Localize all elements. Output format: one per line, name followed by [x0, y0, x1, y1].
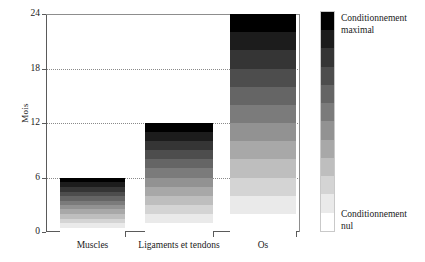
y-tick-label-24: 24 [6, 8, 40, 18]
legend-max-label-line1: Conditionnement [341, 12, 425, 24]
legend-step-7 [321, 140, 334, 158]
legend-min-label: Conditionnement nul [341, 208, 425, 232]
legend-step-9 [321, 176, 334, 194]
y-tick-mark-12 [42, 123, 46, 124]
bar-muscles [60, 178, 125, 233]
y-tick-label-18: 18 [6, 63, 40, 73]
y-tick-mark-6 [42, 178, 46, 179]
legend-colorbar [320, 11, 335, 232]
y-tick-label-0: 0 [6, 226, 40, 236]
y-axis-label: Mois [20, 90, 30, 136]
legend-step-3 [321, 67, 334, 85]
y-tick-mark-0 [42, 232, 46, 233]
bar-ligaments-et-tendons [145, 123, 213, 232]
legend-min-label-line1: Conditionnement [341, 208, 425, 220]
legend-min-label-line2: nul [341, 220, 425, 232]
legend-step-1 [321, 30, 334, 48]
chart-figure: Mois 06121824MusclesLigaments et tendons… [0, 0, 425, 262]
legend-max-label: Conditionnement maximal [341, 12, 425, 36]
legend-step-10 [321, 194, 334, 212]
x-tick-mark-2 [296, 232, 297, 237]
legend-step-8 [321, 158, 334, 176]
legend-step-0 [321, 12, 334, 30]
legend-step-2 [321, 48, 334, 66]
x-tick-mark-0 [125, 232, 126, 237]
y-tick-mark-18 [42, 69, 46, 70]
bar-os [230, 14, 296, 232]
legend-step-11 [321, 213, 334, 231]
y-tick-label-12: 12 [6, 117, 40, 127]
y-tick-label-6: 6 [6, 172, 40, 182]
legend-step-4 [321, 85, 334, 103]
legend-step-6 [321, 121, 334, 139]
x-tick-label-os: Os [203, 240, 323, 250]
y-tick-mark-24 [42, 14, 46, 15]
x-tick-mark-1 [213, 232, 214, 237]
legend-max-label-line2: maximal [341, 24, 425, 36]
legend-step-5 [321, 103, 334, 121]
